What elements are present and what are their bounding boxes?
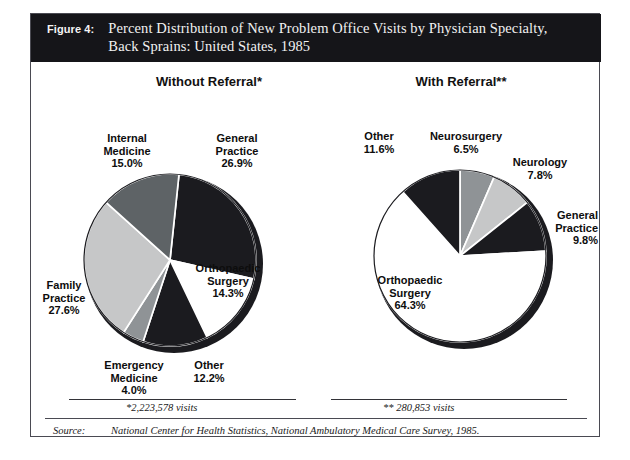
label-left-other: Other 12.2% [181, 359, 237, 384]
label-left-family-practice: Family Practice 27.6% [29, 279, 99, 317]
figure-title-line-1: Percent Distribution of New Problem Offi… [108, 20, 547, 38]
pie-slices-left [84, 174, 256, 346]
footnote-right-visits: ** 280,853 visits [383, 402, 454, 413]
figure-container: Figure 4: Percent Distribution of New Pr… [30, 13, 600, 437]
label-left-internal-medicine: Internal Medicine 15.0% [79, 132, 175, 170]
label-left-orthopaedic-surgery: Orthopaedic Surgery 14.3% [181, 262, 275, 300]
footnote-rule-right [331, 399, 567, 400]
figure-title: Percent Distribution of New Problem Offi… [94, 19, 547, 55]
figure-title-line-2: Back Sprains: United States, 1985 [108, 38, 547, 56]
figure-header-bar: Figure 4: Percent Distribution of New Pr… [31, 14, 601, 62]
label-right-general-practice: General Practice 9.8% [512, 209, 598, 247]
footnote-rule-left [69, 399, 296, 400]
source-label: Source: [53, 425, 85, 436]
label-right-neurology: Neurology 7.8% [498, 156, 582, 181]
source-divider-rule [45, 418, 587, 419]
panel-heading-with-referral: With Referral** [361, 74, 561, 89]
panel-heading-without-referral: Without Referral* [109, 74, 309, 89]
label-right-other: Other 11.6% [348, 130, 410, 155]
label-left-emergency-medicine: Emergency Medicine 4.0% [93, 359, 175, 397]
pie-slices-right-geom [374, 170, 546, 342]
pie-chart-without-referral: Internal Medicine 15.0% General Practice… [31, 104, 316, 384]
label-right-neurosurgery: Neurosurgery 6.5% [414, 130, 518, 155]
footnote-left-visits: *2,223,578 visits [126, 402, 197, 413]
label-left-general-practice: General Practice 26.9% [191, 132, 283, 170]
label-right-orthopaedic-surgery: Orthopaedic Surgery 64.3% [358, 274, 462, 312]
source-text: National Center for Health Statistics, N… [111, 425, 479, 436]
figure-number-label: Figure 4: [31, 19, 94, 35]
pie-chart-with-referral: Other 11.6% Neurosurgery 6.5% Neurology … [316, 104, 601, 384]
